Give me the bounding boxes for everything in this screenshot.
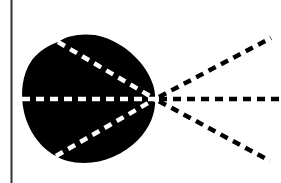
lobe-ray-diagram bbox=[0, 0, 281, 183]
